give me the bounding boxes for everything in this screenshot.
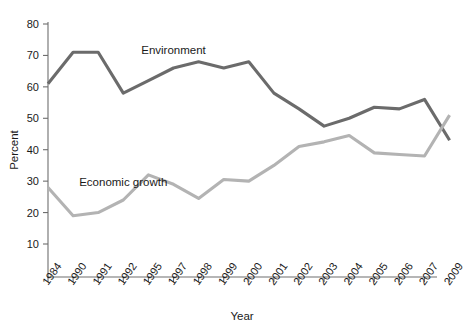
y-tick-label: 50 (27, 112, 39, 124)
y-axis-title: Percent (8, 129, 20, 169)
line-chart: 1020304050607080 19841990199119921995199… (0, 0, 474, 327)
x-tick-label: 1998 (190, 260, 214, 287)
y-tick-label: 70 (27, 49, 39, 61)
x-tick-label: 2007 (416, 260, 440, 287)
x-tick-label: 1999 (216, 260, 240, 287)
x-tick-label: 1991 (90, 260, 114, 287)
series-label-economic-growth: Economic growth (79, 176, 167, 188)
series-lines (48, 52, 450, 215)
x-tick-label: 2005 (366, 260, 390, 287)
y-tick-label: 40 (27, 144, 39, 156)
x-tick-label: 1992 (115, 260, 139, 287)
series-label-environment: Environment (141, 44, 206, 56)
x-tick-label: 2002 (291, 260, 315, 287)
x-tick-label: 1984 (40, 260, 64, 287)
x-axis-title: Year (230, 310, 253, 322)
x-tick-label: 2000 (241, 260, 265, 287)
y-axis-tick-labels: 1020304050607080 (27, 18, 39, 250)
y-tick-label: 20 (27, 207, 39, 219)
y-tick-label: 30 (27, 175, 39, 187)
x-tick-label: 1990 (65, 260, 89, 287)
series-line-environment (48, 52, 450, 140)
y-axis-ticks (43, 24, 48, 244)
y-tick-label: 10 (27, 238, 39, 250)
x-tick-label: 2004 (341, 260, 365, 287)
y-tick-label: 80 (27, 18, 39, 30)
y-tick-label: 60 (27, 81, 39, 93)
series-line-economic-growth (48, 115, 450, 216)
x-tick-label: 2001 (266, 260, 290, 287)
x-tick-label: 1997 (165, 260, 189, 287)
x-axis-tick-labels: 1984199019911992199519971998199920002001… (40, 260, 465, 287)
x-tick-label: 2006 (391, 260, 415, 287)
x-tick-label: 2003 (316, 260, 340, 287)
x-tick-label: 1995 (140, 260, 164, 287)
chart-container: 1020304050607080 19841990199119921995199… (0, 0, 474, 327)
x-tick-label: 2009 (441, 260, 465, 287)
